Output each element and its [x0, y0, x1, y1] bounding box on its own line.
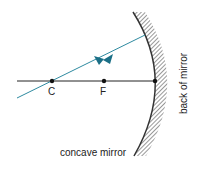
point-f-label: F: [100, 86, 106, 97]
ray-diagram: C F concave mirror back of mirror: [0, 0, 199, 170]
point-c-dot: [50, 79, 54, 83]
point-f-dot: [102, 79, 106, 83]
back-of-mirror-label: back of mirror: [178, 52, 189, 114]
concave-mirror-label: concave mirror: [60, 147, 127, 158]
mirror-hatching: [133, 12, 167, 156]
point-c-label: C: [48, 86, 55, 97]
light-ray: [17, 35, 145, 98]
vertex-dot: [153, 79, 157, 83]
